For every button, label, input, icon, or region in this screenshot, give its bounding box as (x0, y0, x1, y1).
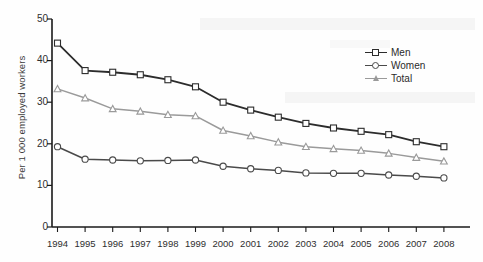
data-point (358, 128, 364, 134)
data-point (413, 139, 419, 145)
legend-marker-women (365, 59, 387, 71)
data-point (386, 172, 392, 178)
data-point (303, 120, 309, 126)
data-point (275, 167, 281, 173)
data-point (220, 99, 226, 105)
data-point (220, 127, 227, 133)
x-tick-label-2008: 2008 (427, 238, 461, 249)
legend-label-men: Men (391, 47, 410, 58)
data-point (82, 68, 88, 74)
plot-area (0, 0, 483, 262)
data-point (110, 69, 116, 75)
series-total (54, 85, 447, 164)
series-women (54, 144, 447, 181)
data-point (441, 144, 447, 150)
data-point (275, 114, 281, 120)
legend-marker-men (365, 46, 387, 58)
legend-item-women: Women (365, 59, 425, 71)
data-point (110, 157, 116, 163)
data-point (220, 163, 226, 169)
data-point (413, 173, 419, 179)
data-point (54, 85, 61, 91)
data-point (248, 107, 254, 113)
data-point (441, 175, 447, 181)
data-point (165, 157, 171, 163)
legend-item-total: Total (365, 72, 425, 84)
data-point (248, 166, 254, 172)
legend: Men Women Total (365, 46, 425, 85)
legend-label-total: Total (391, 73, 412, 84)
data-point (54, 144, 60, 150)
data-point (137, 158, 143, 164)
data-point (386, 132, 392, 138)
data-point (82, 156, 88, 162)
data-point (192, 157, 198, 163)
data-point (358, 170, 364, 176)
data-point (193, 84, 199, 90)
legend-item-men: Men (365, 46, 425, 58)
data-point (165, 77, 171, 83)
legend-label-women: Women (391, 60, 425, 71)
data-point (137, 72, 143, 78)
line-chart: Per 1 000 employed workers 50 40 30 20 1… (0, 0, 483, 262)
data-point (303, 170, 309, 176)
data-point (331, 125, 337, 131)
legend-marker-total (365, 72, 387, 84)
data-point (55, 40, 61, 46)
data-point (330, 170, 336, 176)
